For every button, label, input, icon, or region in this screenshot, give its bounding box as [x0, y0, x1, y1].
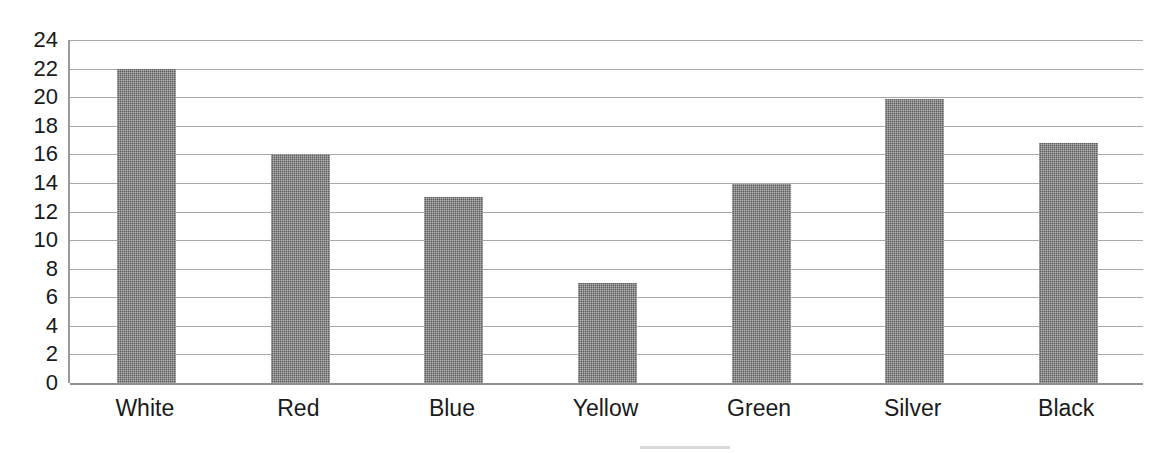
y-axis: 242220181614121086420: [8, 40, 58, 383]
x-axis: WhiteRedBlueYellowGreenSilverBlack: [68, 395, 1143, 435]
x-axis-tick-label: White: [115, 395, 174, 423]
y-axis-tick-label: 0: [46, 372, 58, 394]
x-axis-tick-label: Green: [727, 395, 791, 423]
y-axis-tick-label: 22: [34, 58, 58, 80]
bar: [271, 154, 330, 383]
x-axis-tick-label: Black: [1038, 395, 1094, 423]
y-axis-tick-label: 8: [46, 258, 58, 280]
y-axis-tick-label: 6: [46, 286, 58, 308]
y-axis-tick-label: 24: [34, 29, 58, 51]
axis-baseline: [70, 383, 1143, 385]
x-axis-tick-label: Blue: [429, 395, 475, 423]
x-axis-tick-label: Red: [277, 395, 319, 423]
y-axis-tick-label: 14: [34, 172, 58, 194]
x-axis-tick-label: Silver: [884, 395, 942, 423]
y-axis-tick-label: 16: [34, 143, 58, 165]
plot-area: [68, 40, 1143, 383]
chart-title-remnant: [0, 0, 1153, 4]
bars-layer: [70, 40, 1143, 383]
y-axis-tick-label: 2: [46, 343, 58, 365]
bar-chart-figure: 242220181614121086420 WhiteRedBlueYellow…: [0, 0, 1153, 453]
y-axis-tick-label: 20: [34, 86, 58, 108]
y-axis-tick-label: 18: [34, 115, 58, 137]
page-artifact: [640, 446, 730, 449]
x-axis-tick-label: Yellow: [573, 395, 639, 423]
bar: [732, 184, 791, 383]
bar: [885, 99, 944, 383]
y-axis-tick-label: 4: [46, 315, 58, 337]
bar: [578, 283, 637, 383]
bar: [424, 197, 483, 383]
y-axis-tick-label: 12: [34, 201, 58, 223]
bar: [117, 69, 176, 383]
bar: [1039, 143, 1098, 383]
y-axis-tick-label: 10: [34, 229, 58, 251]
